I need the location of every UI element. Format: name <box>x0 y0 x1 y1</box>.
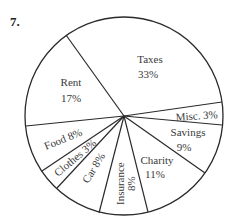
label-charity-pct: 11% <box>145 168 165 180</box>
label-savings-name: Savings <box>171 126 206 138</box>
pie-chart: Taxes 33% Rent 17% Misc. 3% Savings 9% C… <box>0 0 230 217</box>
label-charity-name: Charity <box>141 154 174 166</box>
label-taxes-name: Taxes <box>137 53 163 65</box>
label-rent-pct: 17% <box>61 92 81 104</box>
label-rent-name: Rent <box>61 76 82 88</box>
label-taxes-pct: 33% <box>138 68 158 80</box>
label-insurance-pct: 8% <box>125 176 137 191</box>
label-savings-pct: 9% <box>177 141 192 153</box>
